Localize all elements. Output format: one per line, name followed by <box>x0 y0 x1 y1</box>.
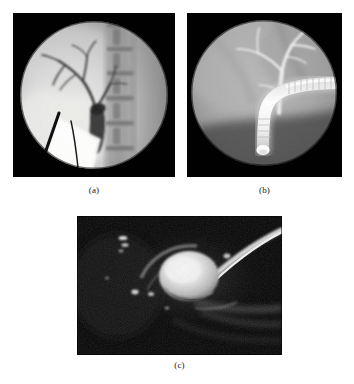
panel-a-cholangiogram-image <box>13 13 175 177</box>
panel-a-svg <box>13 13 175 177</box>
panel-c-caption: (c) <box>77 359 282 371</box>
panel-a-caption: (a) <box>13 184 175 196</box>
panel-c-svg <box>77 216 282 355</box>
panel-b-ercp-image <box>187 13 342 177</box>
figure-panel-group: (a) (b) (c) <box>0 0 354 384</box>
panel-b-caption: (b) <box>187 184 342 196</box>
panel-b-svg <box>187 13 342 177</box>
panel-c-darkfield-image <box>77 216 282 355</box>
